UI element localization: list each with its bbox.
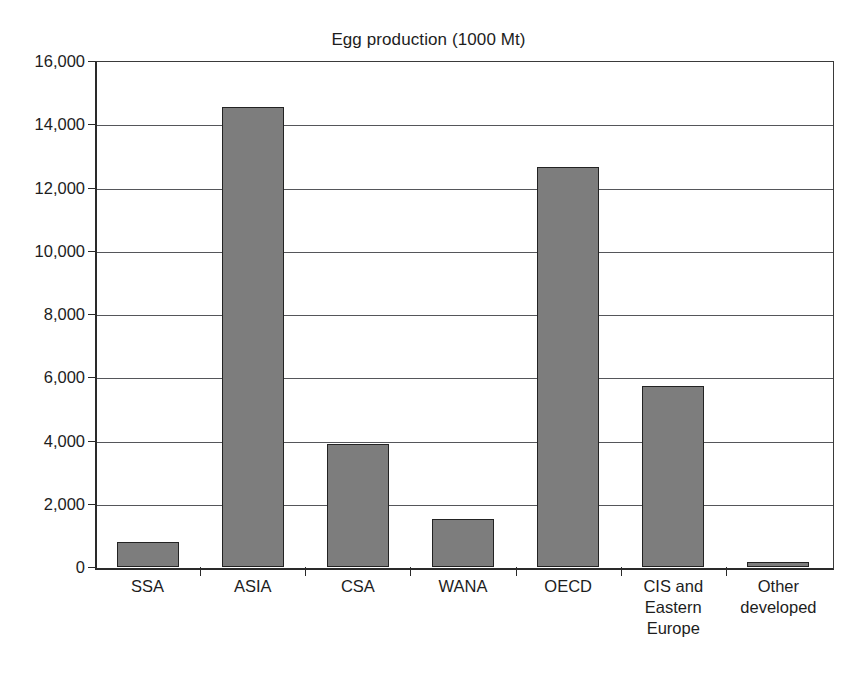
x-cat-label: ASIA [200, 576, 305, 597]
y-tick-label: 14,000 [0, 115, 85, 134]
x-tick-mark [410, 567, 411, 576]
y-tick-label: 12,000 [0, 178, 85, 197]
x-cat-label-line: CIS and [621, 576, 726, 597]
bar [537, 167, 599, 567]
x-cat-label: SSA [95, 576, 200, 597]
x-cat-label-line: CSA [305, 576, 410, 597]
x-cat-label-line: ASIA [200, 576, 305, 597]
bars-series [95, 61, 831, 567]
bar [747, 562, 809, 567]
x-cat-label-line: Eastern [621, 597, 726, 618]
y-tick-label: 10,000 [0, 241, 85, 260]
x-axis-labels: SSAASIACSAWANAOECDCIS andEasternEuropeOt… [95, 576, 831, 676]
y-tick-label: 16,000 [0, 52, 85, 71]
y-tick-label: 8,000 [0, 305, 85, 324]
x-cat-label-line: developed [726, 597, 831, 618]
bar [642, 386, 704, 567]
y-tick-label: 0 [0, 558, 85, 577]
y-tick-label: 6,000 [0, 368, 85, 387]
x-tick-mark [305, 567, 306, 576]
y-tick-label: 2,000 [0, 494, 85, 513]
x-tick-mark [200, 567, 201, 576]
bar [222, 107, 284, 567]
x-cat-label: OECD [516, 576, 621, 597]
x-tick-mark [516, 567, 517, 576]
x-cat-label: CSA [305, 576, 410, 597]
bar [117, 542, 179, 567]
x-cat-label: CIS andEasternEurope [621, 576, 726, 639]
x-cat-label: WANA [410, 576, 515, 597]
x-cat-label: Otherdeveloped [726, 576, 831, 618]
x-cat-label-line: SSA [95, 576, 200, 597]
x-cat-label-line: Europe [621, 618, 726, 639]
bar [432, 519, 494, 567]
bar [327, 444, 389, 567]
bar-chart-figure: Egg production (1000 Mt) 16,00014,00012,… [0, 0, 857, 682]
y-tick-label: 4,000 [0, 431, 85, 450]
x-cat-label-line: Other [726, 576, 831, 597]
x-tick-mark [726, 567, 727, 576]
x-tick-mark [621, 567, 622, 576]
x-cat-label-line: OECD [516, 576, 621, 597]
x-cat-label-line: WANA [410, 576, 515, 597]
page-caption-partial [6, 672, 526, 681]
